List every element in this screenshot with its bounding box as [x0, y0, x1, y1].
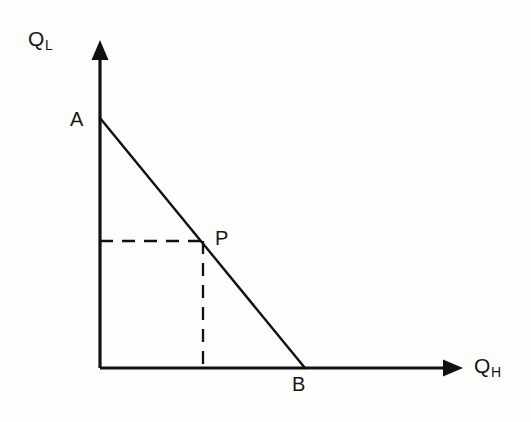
- y-axis-label: QL: [28, 28, 53, 49]
- point-label-p: P: [215, 228, 228, 248]
- x-axis-label-subscript: H: [491, 364, 501, 380]
- production-possibility-frontier-figure: QL QH A P B: [0, 0, 531, 422]
- y-axis-label-symbol: Q: [28, 27, 45, 50]
- x-axis-arrow-icon: [443, 360, 463, 377]
- point-label-b: B: [292, 374, 305, 394]
- x-axis-label-symbol: Q: [474, 354, 491, 377]
- y-axis-arrow-icon: [92, 40, 109, 60]
- figure-canvas: [0, 0, 531, 422]
- point-label-a: A: [70, 109, 83, 129]
- y-axis-label-subscript: L: [45, 37, 53, 53]
- x-axis-label: QH: [474, 355, 501, 376]
